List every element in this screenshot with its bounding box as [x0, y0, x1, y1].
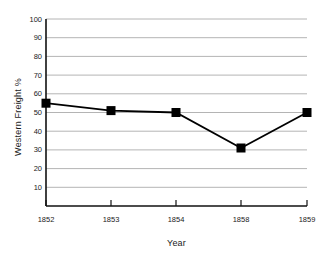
chart-figure: 100 90 80 70 60 50 40 30 20 10 1852 1853…	[0, 0, 325, 264]
y-tick-label-10: 10	[20, 183, 42, 192]
data-point-1852	[42, 99, 51, 108]
x-tick-label-1853: 1853	[91, 215, 131, 224]
y-tick-label-50: 50	[20, 108, 42, 117]
y-tick-label-90: 90	[20, 33, 42, 42]
data-point-1858	[237, 144, 246, 153]
x-tick-label-1852: 1852	[26, 215, 66, 224]
y-tick-label-100: 100	[20, 15, 42, 24]
x-axis-title: Year	[46, 238, 307, 248]
data-point-1859	[303, 108, 312, 117]
y-tick-label-40: 40	[20, 127, 42, 136]
data-point-1853	[107, 106, 116, 115]
x-tick-label-1858: 1858	[221, 215, 261, 224]
y-tick-label-30: 30	[20, 145, 42, 154]
y-tick-label-20: 20	[20, 164, 42, 173]
x-tick-label-1854: 1854	[156, 215, 196, 224]
line-chart-canvas	[0, 0, 325, 264]
y-tick-label-80: 80	[20, 52, 42, 61]
y-tick-label-70: 70	[20, 71, 42, 80]
y-axis-title: Western Freight %	[13, 57, 23, 177]
data-point-1854	[172, 108, 181, 117]
x-tick-label-1859: 1859	[287, 215, 325, 224]
y-tick-label-60: 60	[20, 89, 42, 98]
